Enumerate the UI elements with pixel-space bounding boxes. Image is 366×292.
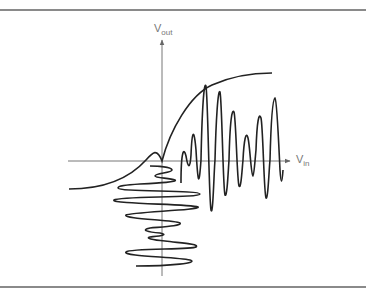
diagram-frame: Vout Vin <box>0 0 366 292</box>
y-axis-label: Vout <box>154 23 172 34</box>
diagram-canvas <box>0 0 366 292</box>
y-axis-label-sub: out <box>161 28 172 37</box>
input-waveform <box>114 166 200 266</box>
x-axis-label: Vin <box>296 154 310 165</box>
x-axis-label-sub: in <box>303 159 309 168</box>
